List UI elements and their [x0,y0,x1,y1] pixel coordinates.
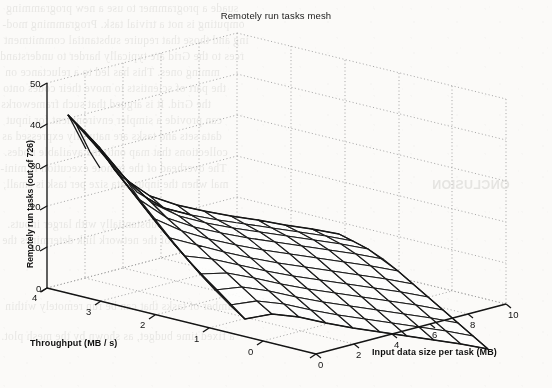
x-tick-2: 2 [140,319,145,330]
y-axis-label: Input data size per task (MB) [372,347,497,357]
x-tick-0: 0 [248,346,253,357]
x-tick-3: 3 [86,306,91,317]
chart-title: Remotely run tasks mesh [0,10,552,21]
z-axis-ticks [40,83,47,292]
z-axis-label: Remotely run tasks (out of 726) [25,140,35,268]
y-tick-10: 10 [508,309,519,320]
y-tick-0: 0 [318,359,323,370]
surface-mesh [68,115,488,349]
z-tick-50: 50 [30,78,41,89]
x-tick-1: 1 [194,333,199,344]
figure-page: suade a programmer to use a new programm… [0,0,552,388]
y-tick-2: 2 [356,349,361,360]
x-axis-label: Throughput (MB / s) [30,338,117,348]
x-tick-4: 4 [32,292,37,303]
y-tick-8: 8 [470,319,475,330]
z-tick-40: 40 [30,119,41,130]
mesh-plot: .grid { stroke:#9c9c9c; stroke-width:.85… [0,0,552,388]
y-tick-6: 6 [432,329,437,340]
